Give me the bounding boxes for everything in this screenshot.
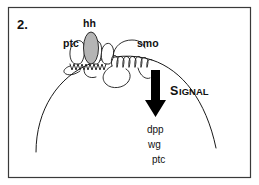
target-gene-ptc: ptc [152, 154, 165, 165]
signal-rest-letters: IGNAL [179, 86, 209, 97]
panel-number: 2. [17, 17, 28, 32]
ptc-intracellular-loop [84, 70, 96, 78]
signal-cap-letter: S [170, 84, 178, 98]
panel-border [9, 8, 251, 178]
hedgehog-signaling-diagram: 2. [0, 0, 259, 185]
cell-membrane-arc [36, 56, 216, 152]
smo-label: smo [137, 37, 159, 49]
smo-c-terminus [138, 68, 150, 79]
hh-label: hh [83, 17, 96, 29]
target-gene-dpp: dpp [147, 124, 164, 135]
target-gene-wg: wg [147, 139, 161, 150]
smo-intracellular-loop-1 [103, 66, 128, 88]
ptc-loop-3 [101, 43, 113, 64]
hh-ligand-oval [84, 32, 99, 64]
signal-label: S IGNAL [170, 84, 209, 98]
ptc-label: ptc [63, 37, 79, 49]
figure-panel: 2. [0, 0, 259, 185]
signal-arrow [145, 70, 166, 117]
smo-intracellular-loop-2 [126, 69, 130, 82]
